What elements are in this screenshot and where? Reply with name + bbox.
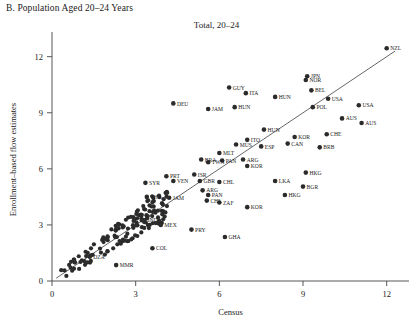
data-point — [147, 209, 151, 213]
data-point — [133, 217, 137, 221]
data-point-label: GHA — [229, 234, 241, 240]
data-point — [83, 250, 87, 254]
data-point — [77, 267, 81, 271]
data-point-label: AUS — [365, 120, 376, 126]
data-point — [135, 210, 139, 214]
data-point — [111, 246, 115, 250]
data-point-label: JAM — [212, 106, 223, 112]
data-point — [77, 254, 81, 258]
data-point-label: ITA — [249, 90, 258, 96]
data-point — [283, 193, 288, 198]
data-point-label: HKG — [288, 192, 300, 198]
y-tick-label: 12 — [35, 52, 44, 62]
data-point — [301, 184, 306, 189]
data-point — [244, 91, 249, 96]
data-point-label: ESP — [265, 144, 275, 150]
data-point — [245, 164, 250, 169]
data-point — [227, 85, 232, 90]
data-point — [273, 95, 278, 100]
data-point — [59, 268, 63, 272]
data-point-label: BRA — [205, 157, 217, 163]
data-point-label: MMR — [120, 262, 134, 268]
data-point — [89, 246, 93, 250]
data-point — [357, 103, 362, 108]
data-point — [64, 274, 68, 278]
data-point-label: CAN — [291, 141, 303, 147]
data-point-label: PAN — [226, 158, 237, 164]
data-point — [88, 261, 92, 265]
data-point-label: THA — [150, 194, 162, 200]
data-point-label: ARG — [247, 157, 259, 163]
data-point — [105, 234, 109, 238]
x-axis-label: Census — [218, 307, 243, 317]
data-point — [285, 141, 290, 146]
data-point-label: CHL — [223, 179, 235, 185]
data-point — [113, 234, 117, 238]
data-point-label: GUY — [233, 85, 245, 91]
chart-figure: B. Population Aged 20–24 Years Total, 20… — [0, 0, 419, 319]
data-point — [109, 227, 113, 231]
data-point-label: ZAF — [223, 200, 234, 206]
data-point — [198, 179, 203, 184]
data-point-label: NOR — [309, 77, 321, 83]
data-point-label: GBR — [203, 178, 215, 184]
data-point-label: KOR — [298, 134, 310, 140]
data-point-label: HUN — [268, 127, 280, 133]
data-point-label: SYR — [149, 180, 160, 186]
data-point-label: DEU — [177, 101, 189, 107]
data-point — [98, 246, 102, 250]
data-point — [192, 172, 197, 177]
y-axis-label: Enrollment–based flow estimates — [8, 103, 18, 216]
data-point — [164, 174, 169, 179]
data-point — [158, 223, 163, 228]
x-tick-label: 6 — [217, 289, 221, 299]
data-point — [160, 201, 164, 205]
point-labels-group: NZLJPNNORBELHUNUSAGUYITAHUNPOLUSADEUJAMA… — [93, 45, 401, 268]
data-point — [217, 180, 222, 185]
data-point — [114, 263, 119, 268]
data-point — [129, 215, 133, 219]
data-point — [165, 204, 169, 208]
x-tick-label: 0 — [50, 289, 54, 299]
x-tick-label: 12 — [382, 289, 391, 299]
data-point — [105, 249, 109, 253]
data-point-label: ISR — [198, 172, 207, 178]
data-point — [359, 121, 364, 126]
data-point-label: HKG — [309, 170, 321, 176]
data-point — [189, 227, 194, 232]
data-point — [125, 232, 129, 236]
data-point-label: JAM — [173, 195, 184, 201]
data-point-label: HUN — [279, 94, 291, 100]
data-point — [145, 195, 150, 200]
data-point — [292, 135, 297, 140]
y-tick-label: 0 — [39, 276, 43, 286]
data-point — [223, 235, 228, 240]
y-tick-label: 3 — [39, 220, 43, 230]
data-point — [245, 205, 250, 210]
data-point — [273, 179, 278, 184]
data-point — [145, 199, 149, 203]
data-point-label: VEN — [177, 178, 189, 184]
data-point-label: USA — [362, 102, 373, 108]
data-point-label: CHL — [210, 198, 222, 204]
data-point-label: CHE — [330, 131, 342, 137]
data-point-label: BGR — [307, 184, 319, 190]
data-point — [129, 237, 133, 241]
data-point — [156, 209, 160, 213]
data-point — [114, 228, 118, 232]
data-point-label: USA — [332, 96, 343, 102]
data-point-label: DZA — [93, 254, 105, 260]
data-point — [147, 226, 151, 230]
data-point-label: HUN — [238, 104, 250, 110]
data-point — [119, 242, 123, 246]
data-point-label: AUS — [346, 115, 357, 121]
data-point — [72, 257, 76, 261]
data-point — [204, 198, 209, 203]
data-point-label: ITO — [251, 137, 260, 143]
data-point — [124, 218, 128, 222]
data-point — [142, 218, 147, 223]
data-point — [200, 188, 205, 193]
data-point — [150, 246, 155, 251]
data-point — [140, 213, 144, 217]
y-tick-label: 9 — [39, 108, 43, 118]
